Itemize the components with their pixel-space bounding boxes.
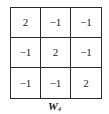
kernel-cell-r0-c2: −1 bbox=[71, 8, 101, 38]
kernel-cell-r2-c2: 2 bbox=[71, 68, 101, 98]
kernel-cell-r1-c2: −1 bbox=[71, 38, 101, 68]
kernel-grid: 2 −1 −1 −1 2 −1 −1 −1 2 bbox=[10, 7, 102, 99]
kernel-cell-r2-c0: −1 bbox=[11, 68, 41, 98]
kernel-cell-r1-c1: 2 bbox=[41, 38, 71, 68]
kernel-caption: W4 bbox=[0, 101, 109, 112]
kernel-cell-r0-c0: 2 bbox=[11, 8, 41, 38]
kernel-cell-r0-c1: −1 bbox=[41, 8, 71, 38]
kernel-cell-r2-c1: −1 bbox=[41, 68, 71, 98]
caption-subscript: 4 bbox=[58, 106, 61, 112]
caption-main: W bbox=[48, 100, 58, 112]
kernel-cell-r1-c0: −1 bbox=[11, 38, 41, 68]
